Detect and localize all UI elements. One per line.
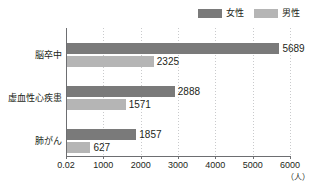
category-label: 肺がん [0, 136, 62, 146]
x-tick-label: 6000 [280, 160, 300, 170]
category-label: 虚血性心疾患 [0, 93, 62, 103]
bar-row-female: 1857 [67, 128, 162, 141]
tickmark [178, 156, 179, 159]
bar-male[interactable] [67, 56, 154, 67]
tickmark [66, 156, 67, 159]
bar-group: 1857627 [67, 128, 162, 154]
tickmark [215, 156, 216, 159]
bar-value-male: 2325 [157, 57, 179, 67]
axis-unit-label: （人） [286, 173, 310, 182]
bar-value-female: 2888 [178, 87, 200, 97]
chart-legend: 女性 男性 [198, 4, 300, 22]
x-tick-label: 0.02 [57, 160, 75, 170]
x-tick-label: 5000 [243, 160, 263, 170]
tickmark [141, 156, 142, 159]
bar-group: 56892325 [67, 42, 305, 68]
bar-male[interactable] [67, 142, 90, 153]
x-tick-label: 2000 [131, 160, 151, 170]
bar-group: 28881571 [67, 85, 200, 111]
legend-label-female: 女性 [226, 9, 244, 18]
tickmark [253, 156, 254, 159]
bar-value-female: 5689 [282, 44, 304, 54]
bar-row-female: 2888 [67, 85, 200, 98]
legend-label-male: 男性 [282, 9, 300, 18]
category-label: 脳卒中 [0, 50, 62, 60]
legend-swatch-male [254, 9, 278, 18]
bar-value-male: 627 [93, 143, 110, 153]
tickmark [103, 156, 104, 159]
category-axis-labels: 脳卒中虚血性心疾患肺がん [0, 28, 62, 156]
bar-male[interactable] [67, 99, 126, 110]
bar-row-male: 1571 [67, 98, 200, 111]
bar-female[interactable] [67, 43, 279, 54]
bar-chart: 女性 男性 脳卒中虚血性心疾患肺がん 568923252888157118576… [0, 0, 319, 191]
plot-area: 56892325288815711857627 [66, 28, 290, 156]
x-tick-label: 4000 [205, 160, 225, 170]
bar-value-female: 1857 [139, 130, 161, 140]
bar-female[interactable] [67, 86, 175, 97]
bar-female[interactable] [67, 129, 136, 140]
bar-row-female: 5689 [67, 42, 305, 55]
x-tick-label: 1000 [93, 160, 113, 170]
bar-value-male: 1571 [129, 100, 151, 110]
tickmark [290, 156, 291, 159]
legend-item-female: 女性 [198, 9, 244, 18]
x-tick-label: 3000 [168, 160, 188, 170]
legend-swatch-female [198, 9, 222, 18]
legend-item-male: 男性 [254, 9, 300, 18]
bar-row-male: 2325 [67, 55, 305, 68]
bar-row-male: 627 [67, 141, 162, 154]
